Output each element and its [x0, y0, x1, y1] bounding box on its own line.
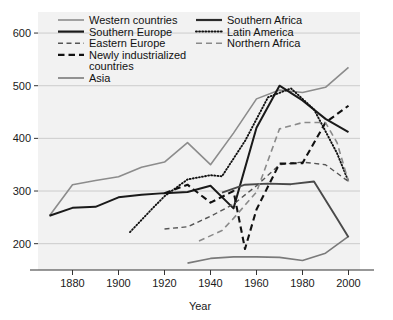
legend-right-label-0: Southern Africa — [227, 14, 303, 26]
legend-left-label-4: countries — [89, 60, 134, 72]
x-tick-label-1920: 1920 — [152, 277, 176, 289]
y-tick-label-500: 500 — [13, 80, 31, 92]
x-tick-label-1980: 1980 — [290, 277, 314, 289]
legend-left-label-1: Southern Europe — [89, 26, 172, 38]
legend-left-label-0: Western countries — [89, 14, 178, 26]
x-tick-label-1960: 1960 — [244, 277, 268, 289]
legend-left-label-3: Newly industrialized — [89, 49, 186, 61]
x-axis-title: Year — [189, 300, 212, 312]
x-tick-label-1880: 1880 — [60, 277, 84, 289]
chart-canvas: 1880190019201940196019802000 20030040050… — [0, 0, 393, 320]
y-tick-label-300: 300 — [13, 185, 31, 197]
legend-right-label-2: Northern Africa — [227, 37, 301, 49]
x-tick-label-1900: 1900 — [106, 277, 130, 289]
x-tick-label-1940: 1940 — [198, 277, 222, 289]
y-tick-label-600: 600 — [13, 27, 31, 39]
legend-left-label-5: Asia — [89, 72, 111, 84]
x-tick-label-2000: 2000 — [336, 277, 360, 289]
y-tick-label-200: 200 — [13, 238, 31, 250]
line-chart-figure: 1880190019201940196019802000 20030040050… — [0, 0, 393, 320]
legend-left-label-2: Eastern Europe — [89, 37, 165, 49]
y-tick-label-400: 400 — [13, 132, 31, 144]
plot-area-background — [38, 12, 360, 270]
legend-right-label-1: Latin America — [227, 26, 295, 38]
